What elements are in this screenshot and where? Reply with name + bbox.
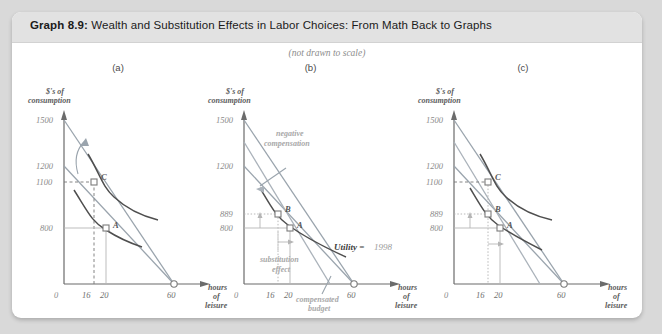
panel-c-substitution-arrow-head (498, 242, 504, 247)
panel-c-point-b (485, 211, 491, 217)
figure-title: Graph 8.9: Wealth and Substitution Effec… (30, 19, 492, 31)
figure-page: Graph 8.9: Wealth and Substitution Effec… (0, 0, 662, 334)
panel-b-point-b-label: B (284, 204, 291, 214)
panel-a-indifference-curve-c (88, 154, 158, 220)
panel-b-origin: 0 (234, 290, 239, 300)
panel-c-xlabel-2: of (613, 292, 621, 301)
panel-a-xtick-16: 16 (82, 290, 91, 300)
panel-b-xtick-60: 60 (347, 290, 356, 300)
panel-a-xtick-20: 20 (100, 290, 109, 300)
panel-b: (b) $'s of consumption hours of leisure (198, 62, 423, 312)
panel-a-shift-arrowhead (80, 138, 89, 146)
figure-number: Graph 8.9: (30, 19, 88, 31)
panel-a-ytick-1500: 1500 (36, 115, 54, 125)
panel-a-ytick-800: 800 (40, 223, 54, 233)
figure-title-text: Wealth and Substitution Effects in Labor… (91, 19, 492, 31)
panel-c-y-arrowhead (451, 110, 457, 120)
panel-c-ytick-1100: 1100 (426, 177, 443, 187)
panel-a-xtick-60: 60 (167, 290, 176, 300)
panel-a-point-c-label: C (101, 172, 107, 182)
panel-c-point-c-label: C (495, 172, 501, 182)
panel-a-ytick-1100: 1100 (36, 177, 53, 187)
figure-subtitle: (not drawn to scale) (12, 48, 642, 58)
panel-a: (a) $'s of consumption hours of leisure (18, 62, 218, 312)
panel-b-ylabel-1: $'s of (225, 87, 245, 96)
panel-a-shift-arrow (76, 142, 84, 174)
panel-b-substitution-arrow-head (288, 240, 294, 245)
panel-b-substitution-effect-line1: substitution (259, 255, 299, 264)
figure-titlebar: Graph 8.9: Wealth and Substitution Effec… (12, 12, 642, 43)
panel-c-ylabel-2: consumption (418, 96, 461, 105)
panel-c-xlabel-1: hours (608, 283, 627, 292)
panel-c-ytick-1200: 1200 (426, 161, 444, 171)
panel-b-point-b (275, 211, 281, 217)
panel-a-original-budget-line (64, 166, 174, 284)
panel-c-ylabel-1: $'s of (435, 87, 455, 96)
panel-c-indifference-curve-c (480, 154, 552, 220)
panel-a-point-a-label: A (112, 220, 119, 230)
panel-c-ytick-1500: 1500 (426, 115, 444, 125)
panel-a-y-arrowhead (61, 110, 67, 120)
panel-b-utility-value: 1998 (374, 242, 393, 252)
panel-b-substitution-effect-line2: effect (272, 265, 291, 274)
panel-b-negative-comp-arrow-head (256, 186, 264, 193)
panel-c-point-a-label: A (506, 220, 513, 230)
panel-b-xtick-20: 20 (284, 290, 293, 300)
panel-b-ylabel-2: consumption (208, 96, 251, 105)
panel-b-compensated-budget-line1: compensated (296, 295, 340, 304)
panel-a-origin: 0 (54, 290, 59, 300)
panel-a-ylabel-2: consumption (28, 96, 71, 105)
panel-c-ytick-800: 800 (430, 223, 444, 233)
panel-a-point-endowment (171, 281, 177, 287)
panel-c-ytick-889: 889 (430, 209, 444, 219)
panel-c-xtick-20: 20 (494, 290, 503, 300)
panel-b-negative-compensation-line1: negative (276, 129, 304, 138)
panel-b-compensated-budget-line2: budget (308, 304, 331, 313)
panel-b-compensation-arrow-up (258, 212, 263, 218)
panel-c: (c) $'s of consumption hours of leisure (408, 62, 638, 312)
panel-b-xtick-16: 16 (266, 290, 275, 300)
panel-c-point-endowment (561, 281, 567, 287)
panel-c-origin: 0 (444, 290, 449, 300)
panel-c-xtick-16: 16 (476, 290, 485, 300)
panel-c-xlabel-3: leisure (605, 301, 628, 310)
panel-c-point-a (497, 225, 503, 231)
panel-c-xtick-60: 60 (557, 290, 566, 300)
panel-b-ytick-1500: 1500 (216, 115, 234, 125)
panel-b-ytick-889: 889 (220, 209, 234, 219)
panel-a-ytick-1200: 1200 (36, 161, 54, 171)
panel-c-point-b-label: B (494, 204, 501, 214)
panel-a-point-c (91, 179, 97, 185)
panel-a-point-a (103, 225, 109, 231)
panel-c-point-c (485, 179, 491, 185)
panel-a-ylabel-1: $'s of (45, 87, 65, 96)
panel-b-negative-compensation-line2: compensation (264, 139, 310, 148)
panel-c-new-budget-line (454, 120, 564, 284)
panel-b-ytick-1200: 1200 (216, 161, 234, 171)
panel-b-y-arrowhead (241, 110, 247, 120)
panel-b-ytick-800: 800 (220, 223, 234, 233)
panel-c-compensation-arrow-up (468, 212, 473, 218)
panel-b-point-a (287, 225, 293, 231)
figure-card: Graph 8.9: Wealth and Substitution Effec… (12, 12, 642, 318)
panel-b-utility-label: Utility = (334, 242, 364, 252)
panel-b-point-a-label: A (296, 220, 303, 230)
panel-b-point-endowment (351, 281, 357, 287)
